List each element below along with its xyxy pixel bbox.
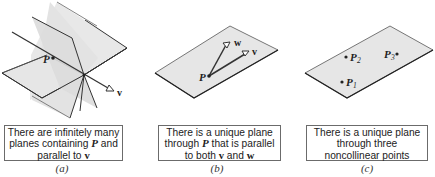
intersection-point — [83, 74, 86, 77]
panel-label-b: (b) — [202, 162, 232, 174]
label-p3-sub: 3 — [390, 53, 395, 62]
caption-a-line1: There are infinitely many — [5, 127, 122, 138]
caption-b-line3: to both v and w — [159, 150, 280, 161]
label-p2: P — [350, 51, 357, 63]
caption-c: There is a unique plane through three no… — [306, 125, 428, 161]
caption-a: There are infinitely many planes contain… — [4, 125, 123, 161]
point-p1 — [340, 80, 343, 83]
label-p-a: P — [43, 53, 50, 65]
label-w-b: w — [234, 37, 242, 48]
caption-c-line1: There is a unique plane — [307, 127, 427, 138]
plane-c — [305, 26, 433, 98]
point-p — [51, 56, 55, 60]
panel-a-drawing: P v — [2, 2, 127, 118]
caption-c-line3: noncollinear points — [307, 150, 427, 161]
caption-a-line3: parallel to v — [5, 150, 122, 161]
caption-b-line1: There is a unique plane — [159, 127, 280, 138]
point-p2 — [344, 55, 347, 58]
point-p — [207, 74, 211, 78]
point-p3 — [395, 52, 398, 55]
panel-label-c: (c) — [352, 162, 382, 174]
label-v-a: v — [117, 87, 122, 98]
label-v-b: v — [252, 46, 257, 57]
caption-b-line2: through P that is parallel — [159, 138, 280, 149]
caption-a-line2: planes containing P and — [5, 138, 122, 149]
label-p3: P — [384, 48, 391, 60]
label-p-b: P — [199, 71, 206, 83]
arrow-v-icon — [106, 85, 114, 91]
caption-c-line2: through three — [307, 138, 427, 149]
label-p2-sub: 2 — [357, 56, 361, 65]
label-p1: P — [346, 76, 353, 88]
panel-b-drawing: P w v — [155, 26, 278, 98]
panel-c-drawing: P 2 P 3 P 1 — [305, 26, 433, 98]
caption-b: There is a unique plane through P that i… — [158, 125, 281, 161]
panel-label-a: (a) — [47, 162, 77, 174]
label-p1-sub: 1 — [353, 81, 357, 90]
